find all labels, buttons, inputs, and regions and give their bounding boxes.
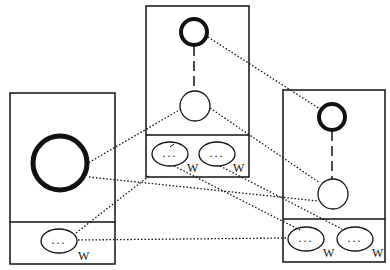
right-oval-2-w-label: W: [372, 246, 384, 260]
middle-oval-1-dots: ...: [163, 146, 178, 160]
middle-thick-circle: [181, 19, 207, 45]
middle-oval-2-dots: ...: [210, 146, 225, 160]
middle-thin-circle: [180, 91, 210, 121]
left-oval-dots: ...: [52, 233, 67, 247]
right-thin-circle: [318, 179, 348, 209]
left-panel: ... W: [10, 93, 115, 264]
middle-oval-1-w-label: W: [187, 161, 199, 175]
left-large-thick-circle: [33, 136, 87, 190]
left-oval-w-label: W: [78, 249, 90, 263]
connection-left-oval-to-mid-corner: [76, 176, 149, 233]
middle-panel: ... W ... W: [146, 6, 249, 177]
middle-oval-2-w-label: W: [233, 161, 245, 175]
connection-mid-thick-to-right-thick: [208, 37, 320, 109]
right-oval-1-w-label: W: [323, 246, 335, 260]
connection-mid-thin-to-right-thin: [210, 108, 320, 183]
connection-left-oval-to-right-oval-1: [78, 238, 288, 240]
right-oval-1-dots: ...: [299, 231, 314, 245]
right-panel: ... W ... W: [283, 90, 385, 262]
right-oval-2-dots: ...: [348, 231, 363, 245]
right-thick-circle: [319, 104, 345, 130]
diagram-canvas: ... W ... W ... W ... W ... W: [0, 0, 390, 270]
dotted-connections: [76, 37, 342, 240]
connection-mid-oval-1-to-right-oval-1: [174, 166, 300, 230]
